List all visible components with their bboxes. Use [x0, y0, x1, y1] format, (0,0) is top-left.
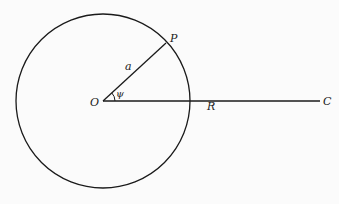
angle-arc-psi: [112, 93, 115, 101]
label-a: a: [125, 60, 132, 73]
label-o: O: [90, 96, 99, 109]
label-p: P: [169, 32, 178, 45]
label-r: R: [206, 100, 215, 113]
label-c: C: [323, 95, 332, 108]
diagram-canvas: O P C a R ψ: [0, 0, 339, 204]
radius-line-op: [103, 43, 166, 101]
label-psi: ψ: [116, 88, 124, 99]
